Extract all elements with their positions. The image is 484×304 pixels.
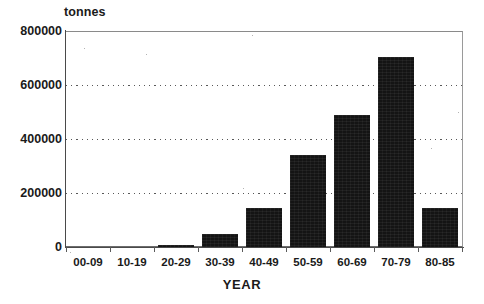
x-tick [242,247,243,252]
bar [290,155,325,247]
bar-chart: tonnes 0200000400000600000800000 00-0910… [0,0,484,304]
x-tick-label: 20-29 [154,256,198,269]
x-tick [66,247,67,252]
x-tick [154,247,155,252]
scan-speck [70,252,71,253]
y-axis-unit-label: tonnes [64,5,106,19]
x-tick [330,247,331,252]
bar [378,57,413,247]
x-tick [286,247,287,252]
x-tick-label: 00-09 [66,256,110,269]
bar [422,208,457,247]
x-tick [418,247,419,252]
x-tick-label: 50-59 [286,256,330,269]
bar [334,115,369,247]
y-tick-label: 800000 [0,25,62,37]
x-tick [198,247,199,252]
bar [158,245,193,247]
x-tick-label: 10-19 [110,256,154,269]
x-tick-label: 60-69 [330,256,374,269]
x-tick [374,247,375,252]
x-tick [462,247,463,252]
bars-group [66,31,462,247]
bar [202,234,237,247]
y-tick-label: 400000 [0,133,62,145]
y-tick-label: 200000 [0,187,62,199]
x-axis-title: YEAR [0,277,484,292]
x-tick [110,247,111,252]
x-tick-label: 30-39 [198,256,242,269]
bar [246,208,281,247]
y-tick-label: 600000 [0,79,62,91]
x-tick-label: 70-79 [374,256,418,269]
y-tick-label: 0 [0,241,62,253]
x-tick-label: 80-85 [418,256,462,269]
x-tick-label: 40-49 [242,256,286,269]
